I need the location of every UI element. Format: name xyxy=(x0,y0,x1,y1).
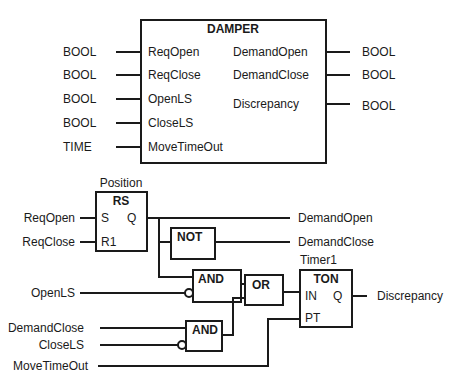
rs-pin-s: S xyxy=(101,211,109,225)
ton-pin-q: Q xyxy=(333,289,342,303)
ton-pin-in: IN xyxy=(305,289,317,303)
output-type-demandclose: BOOL xyxy=(362,68,396,82)
signal-reqclose: ReqClose xyxy=(22,235,75,249)
rs-block-type: RS xyxy=(113,194,130,208)
input-pin-reqopen: ReqOpen xyxy=(148,45,199,59)
damper-block-title: DAMPER xyxy=(207,22,259,36)
negation-circle-closels xyxy=(178,341,186,349)
input-type-reqclose: BOOL xyxy=(63,68,97,82)
signal-demandopen-out: DemandOpen xyxy=(298,211,373,225)
function-block-diagram: DAMPER BOOL BOOL BOOL BOOL TIME ReqOpen … xyxy=(0,0,455,385)
or-gate-label: OR xyxy=(252,278,270,292)
ton-pin-pt: PT xyxy=(305,311,321,325)
damper-block: DAMPER BOOL BOOL BOOL BOOL TIME ReqOpen … xyxy=(63,20,396,163)
output-pin-demandopen: DemandOpen xyxy=(233,45,308,59)
signal-openls: OpenLS xyxy=(31,286,75,300)
signal-reqopen: ReqOpen xyxy=(24,211,75,225)
damper-logic: Position RS S Q R1 ReqOpen ReqClose Dema… xyxy=(8,176,443,373)
output-type-demandopen: BOOL xyxy=(362,45,396,59)
ton-block-type: TON xyxy=(313,272,338,286)
and-gate-2-label: AND xyxy=(192,323,218,337)
input-type-reqopen: BOOL xyxy=(63,45,97,59)
ton-instance-name: Timer1 xyxy=(300,253,337,267)
signal-movetimeout: MoveTimeOut xyxy=(13,359,89,373)
input-type-closels: BOOL xyxy=(63,116,97,130)
signal-demandclose-out: DemandClose xyxy=(298,235,374,249)
rs-pin-q: Q xyxy=(127,211,136,225)
rs-pin-r1: R1 xyxy=(101,235,117,249)
input-type-movetimeout: TIME xyxy=(63,140,92,154)
input-pin-closels: CloseLS xyxy=(148,116,193,130)
negation-circle-openls xyxy=(185,289,193,297)
signal-demandclose-in: DemandClose xyxy=(8,321,84,335)
wire-and2-to-or xyxy=(222,298,245,335)
output-pin-discrepancy: Discrepancy xyxy=(233,97,299,111)
signal-discrepancy-out: Discrepancy xyxy=(377,289,443,303)
signal-closels: CloseLS xyxy=(39,338,84,352)
output-type-discrepancy: BOOL xyxy=(362,99,396,113)
rs-instance-name: Position xyxy=(100,176,143,190)
input-type-openls: BOOL xyxy=(63,92,97,106)
output-pin-demandclose: DemandClose xyxy=(233,68,309,82)
input-pin-reqclose: ReqClose xyxy=(148,68,201,82)
and-gate-1-label: AND xyxy=(198,272,224,286)
input-pin-openls: OpenLS xyxy=(148,92,192,106)
input-pin-movetimeout: MoveTimeOut xyxy=(148,140,224,154)
not-gate-label: NOT xyxy=(177,230,203,244)
